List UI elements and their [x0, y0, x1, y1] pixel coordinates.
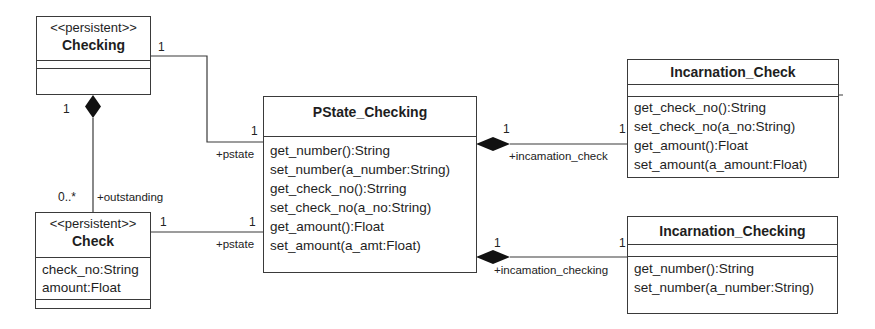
role-label: +outstanding: [97, 191, 163, 203]
class-name: Check: [36, 232, 150, 250]
operation: get_number():String: [628, 259, 837, 278]
multiplicity-label: 1: [619, 122, 626, 136]
multiplicity-label: 0..*: [58, 190, 76, 204]
class-header: Incarnation_Check: [628, 60, 838, 85]
class-name: PState_Checking: [264, 103, 476, 121]
class-pstate-checking[interactable]: PState_Checking get_number():String set_…: [263, 96, 477, 273]
role-label: +pstate: [216, 148, 254, 160]
multiplicity-label: 1: [249, 215, 256, 229]
multiplicity-label: 1: [619, 236, 626, 250]
stereotype-label: <<persistent>>: [36, 213, 150, 232]
operation: set_check_no(a_no:String): [628, 117, 838, 136]
class-checking[interactable]: <<persistent>> Checking: [36, 16, 151, 95]
class-incarnation-check[interactable]: Incarnation_Check get_check_no():String …: [627, 59, 839, 178]
composition-diamond-icon: [85, 95, 101, 118]
operation: set_check_no(a_no:String): [264, 198, 476, 217]
operations-compartment: get_check_no():String set_check_no(a_no:…: [628, 97, 838, 174]
operation: get_number():String: [264, 141, 476, 160]
role-label: +incamation_checking: [494, 264, 608, 276]
multiplicity-label: 1: [63, 102, 70, 116]
composition-diamond-icon: [476, 137, 510, 151]
class-header: <<persistent>> Checking: [37, 17, 150, 61]
operation: get_check_no():Strring: [264, 179, 476, 198]
role-label: +incamation_check: [509, 150, 608, 162]
multiplicity-label: 1: [158, 40, 165, 54]
role-label: +pstate: [216, 238, 254, 250]
attribute: amount:Float: [36, 279, 150, 297]
class-name: Incarnation_Check: [628, 63, 838, 81]
stereotype-label: <<persistent>>: [37, 17, 150, 36]
operation: set_amount(a_amount:Float): [628, 155, 838, 174]
operation: get_amount():Float: [264, 217, 476, 236]
composition-diamond-icon: [476, 250, 510, 264]
attributes-compartment: [37, 61, 150, 69]
class-header: Incarnation_Checking: [628, 217, 837, 245]
class-incarnation-checking[interactable]: Incarnation_Checking get_number():String…: [627, 216, 838, 314]
attribute: check_no:String: [36, 261, 150, 279]
class-header: PState_Checking: [264, 97, 476, 137]
operation: set_number(a_number:String): [264, 160, 476, 179]
operations-compartment: get_number():String set_number(a_number:…: [628, 257, 837, 297]
operation: set_amount(a_amt:Float): [264, 236, 476, 255]
class-name: Incarnation_Checking: [628, 222, 837, 240]
class-header: <<persistent>> Check: [36, 213, 150, 258]
operation: get_check_no():String: [628, 98, 838, 117]
operations-compartment: [37, 69, 150, 94]
multiplicity-label: 1: [503, 122, 510, 136]
multiplicity-label: 1: [251, 124, 258, 138]
class-name: Checking: [37, 36, 150, 54]
class-check[interactable]: <<persistent>> Check check_no:String amo…: [35, 212, 151, 309]
operation: set_number(a_number:String): [628, 278, 837, 297]
multiplicity-label: 1: [494, 236, 501, 250]
association-checking-pstate: [151, 56, 263, 142]
multiplicity-label: 1: [160, 215, 167, 229]
attributes-compartment: [628, 85, 838, 97]
operation: get_amount():Float: [628, 136, 838, 155]
attributes-compartment: check_no:String amount:Float: [36, 258, 150, 300]
attributes-compartment: [628, 245, 837, 257]
operations-compartment: [36, 300, 150, 308]
operations-compartment: get_number():String set_number(a_number:…: [264, 137, 476, 255]
